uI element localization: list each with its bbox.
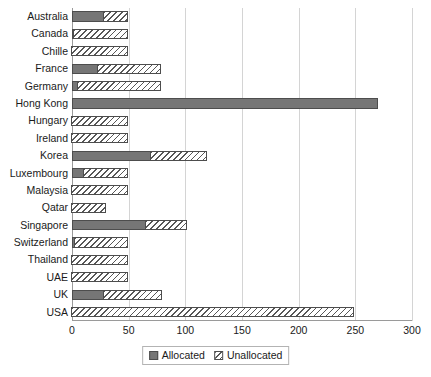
bar-segment-unallocated (83, 168, 127, 178)
bar-row (72, 199, 412, 216)
stacked-bar (72, 307, 354, 317)
bar-row (72, 112, 412, 129)
bar-segment-unallocated (73, 29, 127, 39)
y-axis-category-label: Germany (0, 78, 68, 95)
stacked-bar (72, 29, 128, 39)
bar-segment-unallocated (71, 116, 128, 126)
stacked-bar (72, 255, 128, 265)
x-axis-tick-label: 250 (347, 323, 365, 337)
bar-segment-allocated (72, 64, 98, 74)
y-axis-category-label: Korea (0, 147, 68, 164)
y-axis-category-label: UK (0, 286, 68, 303)
y-axis-category-label: Chille (0, 43, 68, 60)
stacked-bar (72, 46, 128, 56)
plot-area (72, 8, 412, 321)
y-axis-category-label: Thailand (0, 251, 68, 268)
bar-row (72, 95, 412, 112)
legend-label-allocated: Allocated (162, 349, 205, 362)
bar-row (72, 60, 412, 77)
y-axis-category-label: Hungary (0, 112, 68, 129)
y-axis-category-label: Ireland (0, 130, 68, 147)
bar-segment-unallocated (71, 185, 128, 195)
stacked-bar (72, 64, 161, 74)
bar-segment-unallocated (145, 220, 187, 230)
x-axis-tick-label: 300 (403, 323, 421, 337)
y-axis-category-label: France (0, 60, 68, 77)
bar-segment-allocated (72, 220, 146, 230)
bar-segment-unallocated (103, 290, 162, 300)
x-axis-tick-label: 0 (69, 323, 75, 337)
bar-segment-allocated (72, 290, 104, 300)
stacked-bar (72, 203, 106, 213)
bar-row (72, 8, 412, 25)
bar-segment-allocated (72, 98, 378, 108)
bar-segment-unallocated (150, 151, 207, 161)
stacked-bar (72, 220, 187, 230)
bar-row (72, 217, 412, 234)
bar-row (72, 269, 412, 286)
bar-row (72, 182, 412, 199)
y-axis-category-label: USA (0, 304, 68, 321)
bar-segment-unallocated (71, 272, 128, 282)
x-axis-tick-label: 150 (233, 323, 251, 337)
gridline (412, 8, 413, 321)
bar-segment-unallocated (74, 237, 127, 247)
stacked-bar (72, 151, 207, 161)
stacked-bar (72, 185, 128, 195)
legend-label-unallocated: Unallocated (227, 349, 282, 362)
stacked-bar (72, 116, 128, 126)
stacked-bar (72, 98, 378, 108)
bar-row (72, 147, 412, 164)
bar-segment-unallocated (77, 81, 161, 91)
bar-segment-unallocated (71, 46, 128, 56)
stacked-bar (72, 237, 128, 247)
legend-item-allocated: Allocated (149, 349, 205, 362)
y-axis-category-labels: AustraliaCanadaChilleFranceGermanyHong K… (0, 8, 68, 321)
bar-segment-unallocated (71, 203, 106, 213)
bar-row (72, 130, 412, 147)
bar-segment-allocated (72, 11, 104, 21)
stacked-bar (72, 168, 128, 178)
stacked-bar (72, 11, 128, 21)
stacked-bar (72, 290, 162, 300)
y-axis-category-label: Australia (0, 8, 68, 25)
y-axis-category-label: Hong Kong (0, 95, 68, 112)
stacked-bar (72, 133, 128, 143)
stacked-bar (72, 272, 128, 282)
bar-row (72, 234, 412, 251)
bar-segment-unallocated (97, 64, 160, 74)
bar-rows (72, 8, 412, 321)
bar-chart: AustraliaCanadaChilleFranceGermanyHong K… (0, 0, 431, 377)
y-axis-category-label: Canada (0, 25, 68, 42)
y-axis-category-label: Qatar (0, 199, 68, 216)
chart-legend: Allocated Unallocated (142, 346, 290, 365)
bar-segment-unallocated (71, 307, 354, 317)
y-axis-category-label: Malaysia (0, 182, 68, 199)
stacked-bar (72, 81, 161, 91)
bar-row (72, 43, 412, 60)
solid-gray-swatch-icon (149, 351, 158, 360)
x-axis-tick-label: 100 (177, 323, 195, 337)
bar-row (72, 304, 412, 321)
bar-row (72, 165, 412, 182)
bar-segment-unallocated (71, 255, 128, 265)
x-axis-tick-label: 50 (123, 323, 135, 337)
bar-row (72, 78, 412, 95)
bar-segment-unallocated (71, 133, 128, 143)
bar-row (72, 25, 412, 42)
bar-segment-allocated (72, 151, 151, 161)
x-axis-tick-labels: 050100150200250300 (72, 323, 412, 339)
hatched-swatch-icon (214, 351, 223, 360)
bar-row (72, 251, 412, 268)
y-axis-category-label: Singapore (0, 217, 68, 234)
bar-row (72, 286, 412, 303)
y-axis-category-label: UAE (0, 269, 68, 286)
y-axis-category-label: Luxembourg (0, 165, 68, 182)
legend-item-unallocated: Unallocated (214, 349, 282, 362)
x-axis-tick-label: 200 (290, 323, 308, 337)
y-axis-category-label: Switzerland (0, 234, 68, 251)
bar-segment-unallocated (103, 11, 128, 21)
